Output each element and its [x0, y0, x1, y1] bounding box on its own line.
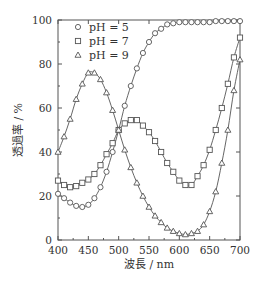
triangle-marker: [67, 116, 73, 121]
circle-marker: [86, 202, 91, 207]
square-marker: [86, 177, 91, 182]
square-marker: [195, 174, 200, 179]
x-tick-label: 600: [169, 244, 189, 256]
circle-marker: [110, 149, 115, 154]
series-square: [55, 35, 242, 190]
y-tick-label: 60: [39, 102, 52, 114]
square-marker: [128, 118, 133, 123]
triangle-marker: [170, 228, 176, 233]
circle-marker: [159, 26, 164, 31]
circle-marker: [80, 204, 85, 209]
triangle-marker: [85, 70, 91, 75]
triangle-marker: [219, 160, 225, 165]
x-tick-label: 500: [109, 244, 129, 256]
circle-marker: [171, 21, 176, 26]
circle-marker: [98, 185, 103, 190]
triangle-marker: [207, 208, 213, 213]
circle-marker: [183, 20, 188, 25]
square-marker: [237, 35, 242, 40]
x-tick-label: 700: [230, 244, 250, 256]
square-marker: [146, 130, 151, 135]
y-tick-label: 0: [45, 234, 52, 246]
circle-marker: [207, 20, 212, 25]
triangle-marker: [237, 57, 243, 62]
circle-marker: [61, 196, 66, 201]
triangle-marker: [213, 189, 219, 194]
x-axis-label: 波長 / nm: [124, 258, 175, 271]
square-marker: [207, 147, 212, 152]
square-marker: [80, 180, 85, 185]
triangle-marker: [97, 76, 103, 81]
square-marker: [189, 182, 194, 187]
square-marker: [201, 163, 206, 168]
square-marker: [74, 184, 79, 189]
legend-label: pH = 5: [89, 21, 129, 34]
square-marker: [122, 121, 127, 126]
square-marker: [98, 163, 103, 168]
circle-marker: [189, 20, 194, 25]
triangle-marker: [110, 107, 116, 112]
square-marker: [92, 171, 97, 176]
circle-marker: [177, 20, 182, 25]
x-tick-label: 450: [78, 244, 98, 256]
legend-label: pH = 7: [89, 35, 129, 48]
square-marker: [219, 105, 224, 110]
series-line: [58, 38, 240, 188]
chart-canvas: 400450500550600650700020406080100 pH = 5…: [0, 0, 261, 288]
square-marker: [55, 178, 60, 183]
triangle-marker: [122, 147, 128, 152]
circle-marker: [75, 24, 80, 29]
circle-marker: [134, 66, 139, 71]
triangle-marker: [75, 52, 81, 57]
circle-marker: [195, 20, 200, 25]
y-axis-label: 透過率 / %: [11, 103, 25, 157]
square-marker: [171, 169, 176, 174]
circle-marker: [128, 83, 133, 88]
square-marker: [213, 127, 218, 132]
circle-marker: [237, 19, 242, 24]
square-marker: [152, 138, 157, 143]
triangle-marker: [128, 164, 134, 169]
circle-marker: [219, 19, 224, 24]
y-tick-label: 40: [39, 146, 52, 158]
circle-marker: [225, 19, 230, 24]
square-marker: [159, 149, 164, 154]
triangle-marker: [231, 87, 237, 92]
circle-marker: [140, 50, 145, 55]
square-marker: [110, 141, 115, 146]
circle-marker: [213, 19, 218, 24]
y-tick-label: 20: [39, 190, 52, 202]
triangle-marker: [140, 193, 146, 198]
triangle-marker: [134, 180, 140, 185]
y-tick-label: 80: [39, 58, 52, 70]
circle-marker: [231, 19, 236, 24]
y-tick-label: 100: [32, 14, 52, 26]
square-marker: [140, 123, 145, 128]
triangle-marker: [79, 81, 85, 86]
circle-marker: [146, 39, 151, 44]
triangle-marker: [73, 96, 79, 101]
triangle-marker: [201, 222, 207, 227]
series-group: [55, 19, 243, 237]
triangle-marker: [225, 127, 231, 132]
circle-marker: [165, 22, 170, 27]
square-marker: [177, 178, 182, 183]
square-marker: [61, 182, 66, 187]
square-marker: [225, 81, 230, 86]
x-tick-label: 650: [200, 244, 220, 256]
triangle-marker: [146, 204, 152, 209]
square-marker: [231, 55, 236, 60]
square-marker: [75, 38, 80, 43]
legend-label: pH = 9: [89, 49, 129, 62]
circle-marker: [74, 203, 79, 208]
circle-marker: [201, 20, 206, 25]
circle-marker: [122, 103, 127, 108]
circle-marker: [68, 200, 73, 205]
triangle-marker: [104, 90, 110, 95]
square-marker: [68, 185, 73, 190]
triangle-marker: [61, 134, 67, 139]
circle-marker: [104, 169, 109, 174]
square-marker: [134, 118, 139, 123]
legend: pH = 5pH = 7pH = 9: [75, 21, 129, 62]
circle-marker: [92, 196, 97, 201]
